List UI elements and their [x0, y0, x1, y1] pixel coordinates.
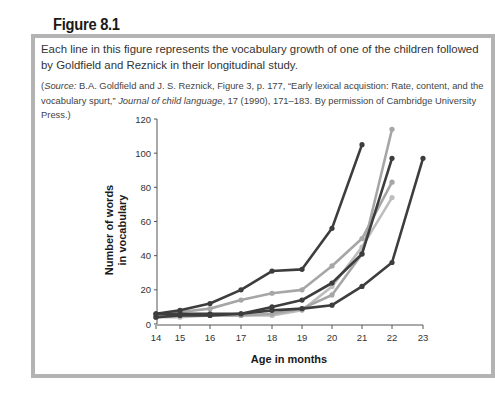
data-point-marker	[238, 297, 243, 302]
chart-series	[153, 127, 425, 320]
x-tick-label: 23	[418, 332, 429, 343]
x-tick-label: 21	[357, 332, 368, 343]
data-point-marker	[207, 311, 212, 316]
data-point-marker	[329, 292, 334, 297]
data-point-marker	[153, 311, 158, 316]
data-point-marker	[329, 226, 334, 231]
y-tick-label: 100	[135, 148, 151, 159]
data-point-marker	[238, 287, 243, 292]
x-tick-label: 16	[205, 332, 216, 343]
y-tick-label: 20	[140, 284, 151, 295]
y-axis-title: Number of wordsin vocabulary	[103, 185, 128, 275]
x-tick-label: 15	[175, 332, 186, 343]
data-point-marker	[359, 251, 364, 256]
data-point-marker	[177, 311, 182, 316]
x-tick-label: 18	[267, 332, 278, 343]
data-point-marker	[389, 127, 394, 132]
data-point-marker	[207, 306, 212, 311]
data-point-marker	[299, 306, 304, 311]
series-line-child-b	[153, 180, 394, 318]
data-point-marker	[329, 280, 334, 285]
data-point-marker	[359, 236, 364, 241]
data-point-marker	[269, 268, 274, 273]
data-point-marker	[207, 301, 212, 306]
y-tick-label: 120	[135, 114, 151, 125]
y-tick-label: 80	[140, 182, 151, 193]
data-point-marker	[359, 142, 364, 147]
series-line-child-a	[153, 142, 364, 316]
y-tick-label: 0	[146, 319, 151, 330]
chart-axes	[154, 119, 423, 329]
data-point-marker	[420, 156, 425, 161]
data-point-marker	[389, 156, 394, 161]
data-point-marker	[238, 311, 243, 316]
data-point-marker	[389, 195, 394, 200]
x-tick-label: 20	[327, 332, 338, 343]
data-point-marker	[389, 180, 394, 185]
y-tick-label: 60	[140, 216, 151, 227]
x-tick-label: 19	[297, 332, 308, 343]
x-tick-label: 17	[236, 332, 247, 343]
data-point-marker	[329, 303, 334, 308]
data-point-marker	[299, 297, 304, 302]
x-tick-label: 22	[387, 332, 398, 343]
data-point-marker	[389, 260, 394, 265]
x-axis-title: Age in months	[251, 353, 327, 365]
data-point-marker	[299, 287, 304, 292]
data-point-marker	[299, 267, 304, 272]
data-point-marker	[359, 284, 364, 289]
data-point-marker	[329, 263, 334, 268]
x-tick-label: 14	[151, 332, 162, 343]
chart-labels: 02040608010012014151617181920212223Age i…	[103, 114, 428, 366]
data-point-marker	[269, 308, 274, 313]
y-tick-label: 40	[140, 250, 151, 261]
series-line-child-c	[153, 156, 394, 320]
data-point-marker	[269, 291, 274, 296]
